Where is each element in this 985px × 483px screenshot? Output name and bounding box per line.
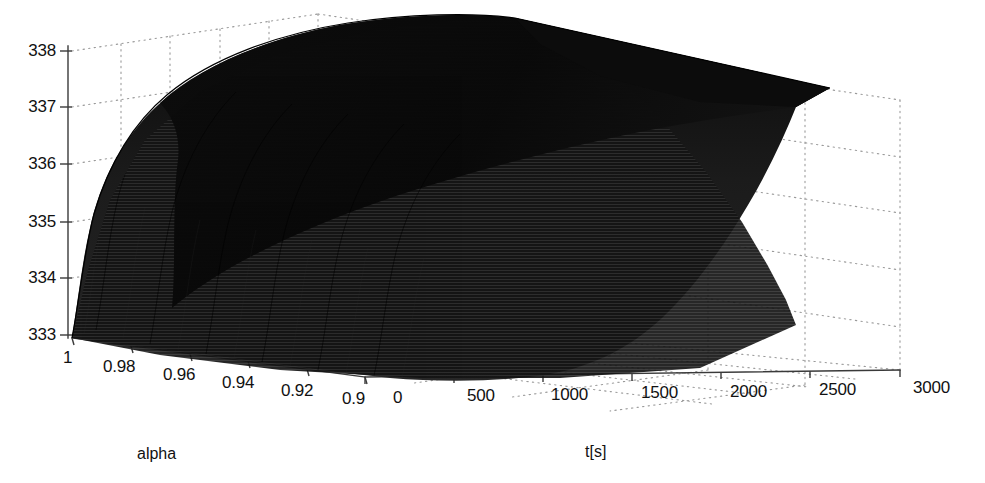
- alpha-tick-0-9: 0.9: [342, 389, 365, 409]
- t-tick-3000: 3000: [913, 378, 950, 398]
- alpha-tick-0-94: 0.94: [222, 373, 254, 393]
- z-tick-337: 337: [16, 97, 56, 117]
- alpha-tick-0-92: 0.92: [281, 381, 313, 401]
- z-tick-338: 338: [16, 41, 56, 61]
- t-tick-2000: 2000: [730, 382, 767, 402]
- t-tick-1000: 1000: [551, 385, 588, 405]
- t-tick-1500: 1500: [641, 383, 678, 403]
- t-tick-0: 0: [393, 388, 402, 408]
- surface-plot-figure: 338 337 336 335 334 333 1 0.98 0.96 0.94…: [0, 0, 985, 483]
- z-axis-ticks: [60, 51, 72, 335]
- alpha-tick-0-96: 0.96: [163, 365, 195, 385]
- z-tick-334: 334: [16, 268, 56, 288]
- z-tick-336: 336: [16, 154, 56, 174]
- z-tick-335: 335: [16, 212, 56, 232]
- surface-mesh: [60, 10, 830, 390]
- plot-canvas: [0, 0, 985, 483]
- t-tick-2500: 2500: [819, 380, 856, 400]
- t-tick-500: 500: [467, 386, 495, 406]
- alpha-tick-1: 1: [63, 348, 72, 368]
- t-axis-title: t[s]: [585, 443, 606, 461]
- alpha-axis-title: alpha: [137, 445, 176, 463]
- alpha-tick-0-98: 0.98: [103, 357, 135, 377]
- z-tick-333: 333: [16, 325, 56, 345]
